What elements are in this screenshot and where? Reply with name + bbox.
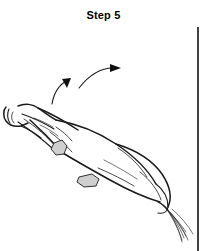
motion-arrow-upper-head	[110, 64, 121, 72]
step-illustration	[0, 0, 207, 251]
muzzle-bridge-line	[8, 109, 10, 123]
body-top-outline	[56, 120, 156, 184]
head-top-outline	[18, 104, 56, 120]
head-group	[4, 104, 56, 138]
animal-drawing	[4, 104, 193, 242]
body-group	[56, 120, 170, 213]
knot-group	[51, 140, 99, 187]
interior-shade-line-2	[104, 160, 137, 179]
body-back-curve	[116, 144, 170, 207]
illustration-page: Step 5	[0, 0, 207, 251]
tail-group	[158, 202, 193, 242]
motion-arrow-upper	[79, 64, 121, 88]
motion-arrow-upper-shaft	[79, 68, 113, 88]
flank-curve	[118, 148, 147, 177]
knot-belly	[77, 174, 99, 187]
motion-arrow-lower	[52, 78, 71, 104]
halter-strap-lower	[18, 122, 52, 148]
nostril-line	[12, 112, 14, 123]
